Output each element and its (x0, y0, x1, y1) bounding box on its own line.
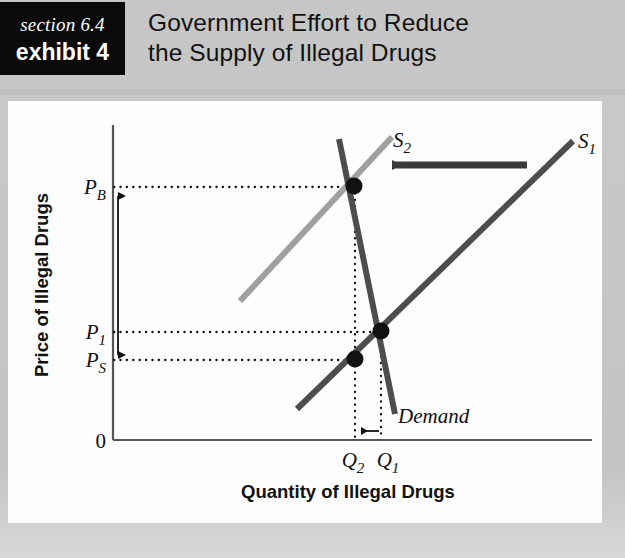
supply-curve-s1 (297, 141, 573, 409)
y-axis-title: Price of Illegal Drugs (31, 193, 52, 377)
x-axis-title: Quantity of Illegal Drugs (241, 481, 455, 502)
x-tick-q2: Q2 (342, 448, 365, 476)
guide-lines (114, 187, 381, 439)
supply-curve-s1-label: S1 (578, 129, 596, 157)
y-tick-p1: P1 (85, 320, 106, 348)
chart-axes (113, 125, 592, 440)
y-tick-pb: PB (83, 175, 106, 203)
buyers-price-point (346, 178, 363, 195)
supply-curve-s2-label: S2 (393, 128, 412, 156)
exhibit-figure: section 6.4 exhibit 4 Government Effort … (0, 0, 625, 558)
demand-curve (339, 139, 395, 414)
origin-label: 0 (96, 429, 107, 453)
x-tick-q1: Q1 (377, 448, 400, 476)
y-tick-ps: PS (85, 348, 107, 376)
initial-equilibrium-point (373, 323, 390, 340)
sellers-price-point (347, 351, 364, 368)
supply-demand-chart: S2 S1 Demand PB P1 PS 0 Q2 (0, 0, 625, 558)
demand-curve-label: Demand (397, 404, 470, 428)
